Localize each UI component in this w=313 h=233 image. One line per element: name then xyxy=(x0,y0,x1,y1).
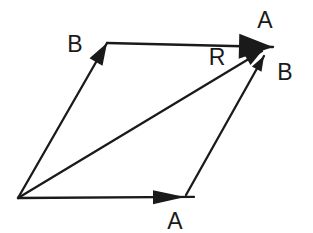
vector-b-right-shaft xyxy=(186,56,264,195)
figure-canvas: BARBA xyxy=(0,0,313,233)
vector-diagram xyxy=(0,0,313,233)
vector-b-left-arrowhead-icon xyxy=(90,43,108,66)
vector-b-left-shaft xyxy=(18,43,107,198)
vector-a-bottom-arrowhead-icon xyxy=(153,190,185,204)
vectors-group xyxy=(18,34,273,205)
